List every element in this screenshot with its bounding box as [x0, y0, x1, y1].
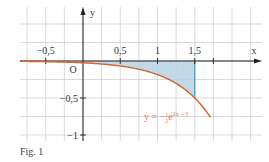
x-axis-label: x [252, 45, 257, 56]
x-tick-label: 1,5 [189, 45, 202, 56]
axes [20, 7, 262, 141]
figure-caption: Fig. 1 [20, 146, 43, 157]
x-tick-label: 0,5 [114, 45, 127, 56]
y-axis-label: y [90, 7, 95, 18]
function-formula-label: y = −12e2x − 3 [144, 111, 188, 124]
y-tick-label: −1 [67, 130, 78, 141]
function-plot: −0,50,511,5−0,5−1xyO y = −12e2x − 3 [0, 0, 269, 162]
origin-label: O [69, 64, 76, 75]
x-tick-label: 1 [155, 45, 160, 56]
y-tick-label: −0,5 [60, 93, 78, 104]
x-tick-label: −0,5 [37, 45, 55, 56]
grid [20, 7, 262, 141]
